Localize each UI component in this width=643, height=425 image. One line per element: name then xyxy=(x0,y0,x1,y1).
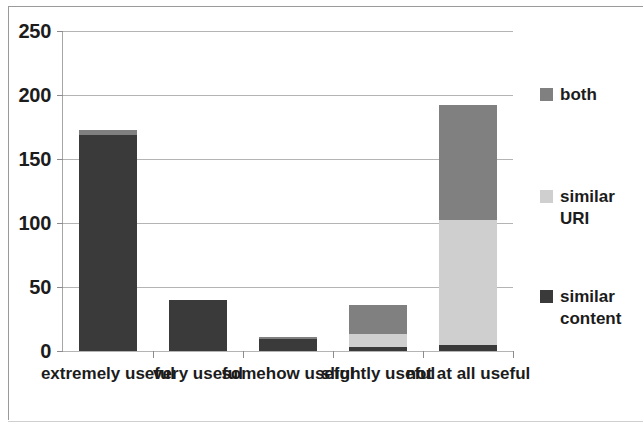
bar-group: extremely useful xyxy=(63,31,153,351)
legend-entry[interactable]: similar URI xyxy=(540,186,615,230)
y-axis-tick-label: 150 xyxy=(19,148,51,171)
stacked-bar[interactable] xyxy=(349,305,407,351)
gridline xyxy=(63,351,513,352)
bar-segment[interactable] xyxy=(349,334,407,347)
bar-segment[interactable] xyxy=(169,300,227,351)
x-axis-category-label: not at all useful xyxy=(406,363,531,384)
legend-entry[interactable]: similar content xyxy=(540,286,621,330)
legend-label: similar URI xyxy=(560,186,615,230)
y-axis-tick-label: 200 xyxy=(19,84,51,107)
stacked-bar[interactable] xyxy=(79,130,137,351)
stacked-bar[interactable] xyxy=(439,105,497,352)
bar-segment[interactable] xyxy=(349,347,407,351)
plot-area: 050100150200250 extremely usefulvery use… xyxy=(62,31,513,352)
legend-swatch-icon xyxy=(540,290,553,303)
bar-group: slightly useful xyxy=(333,31,423,351)
y-axis-tickmark xyxy=(57,351,63,352)
legend-label: similar content xyxy=(560,286,621,330)
legend-swatch-icon xyxy=(540,190,553,203)
legend-entry[interactable]: both xyxy=(540,84,597,106)
bar-group: not at all useful xyxy=(423,31,513,351)
bar-group: very useful xyxy=(153,31,243,351)
legend-swatch-icon xyxy=(540,88,553,101)
legend-label: both xyxy=(560,84,597,106)
bar-segment[interactable] xyxy=(349,305,407,335)
y-axis-tick-label: 50 xyxy=(29,276,51,299)
x-axis-tickmark xyxy=(243,351,244,358)
x-axis-tickmark xyxy=(513,351,514,358)
x-axis-tickmark xyxy=(153,351,154,358)
bar-group: somehow useful xyxy=(243,31,333,351)
scan-frame-top-border xyxy=(8,6,643,7)
stacked-bar[interactable] xyxy=(169,300,227,351)
y-axis-tick-label: 100 xyxy=(19,212,51,235)
scan-frame-bottom-border xyxy=(8,421,643,422)
bar-segment[interactable] xyxy=(439,345,497,351)
x-axis-tickmark xyxy=(333,351,334,358)
bar-chart-figure: 050100150200250 extremely usefulvery use… xyxy=(0,0,643,425)
y-axis-tick-label: 250 xyxy=(19,20,51,43)
bar-segment[interactable] xyxy=(439,105,497,221)
y-axis-tick-label: 0 xyxy=(40,340,51,363)
scan-frame-left-border xyxy=(8,6,9,420)
stacked-bar[interactable] xyxy=(259,337,317,351)
bar-segment[interactable] xyxy=(79,135,137,351)
bar-segment[interactable] xyxy=(259,339,317,351)
bar-segment[interactable] xyxy=(439,220,497,345)
x-axis-tickmark xyxy=(423,351,424,358)
